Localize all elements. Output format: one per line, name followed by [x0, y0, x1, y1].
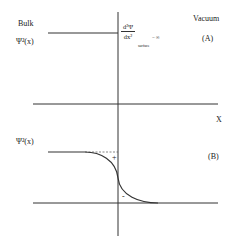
- diagram-canvas: [0, 0, 233, 244]
- psi-squared-label-a: Ψ²(x): [16, 38, 34, 46]
- minus-sign: -: [122, 193, 125, 201]
- surface-derivative-equation: d²Ψ dx²: [121, 23, 135, 40]
- equation-denominator: dx²: [121, 32, 135, 40]
- panel-b-tag: (B): [208, 153, 219, 161]
- density-profile-curve: [48, 152, 158, 203]
- panel-a-tag: (A): [202, 35, 213, 43]
- plus-sign: +: [112, 154, 117, 162]
- psi-squared-label-b: Ψ²(x): [16, 138, 34, 146]
- x-axis-label: X: [216, 116, 222, 124]
- equation-rhs: = ∞: [152, 35, 160, 40]
- equation-subscript: surface: [138, 44, 150, 48]
- bulk-label: Bulk: [18, 20, 34, 28]
- vacuum-label: Vacuum: [193, 15, 219, 23]
- equation-numerator: d²Ψ: [121, 23, 135, 32]
